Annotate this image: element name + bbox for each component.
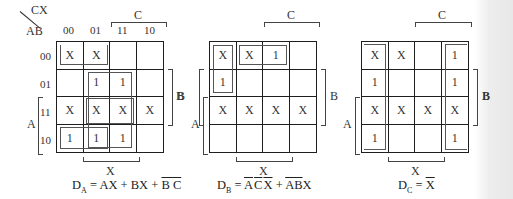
col-var-label: CX	[31, 3, 48, 18]
cell: 1	[362, 70, 389, 98]
cell	[415, 42, 442, 70]
cell	[210, 125, 237, 153]
cell	[137, 42, 164, 70]
c-label: C	[287, 8, 295, 23]
cell	[237, 70, 264, 98]
cell	[237, 125, 264, 153]
cell: X	[84, 42, 111, 70]
cell	[263, 70, 290, 98]
x-bracket	[388, 157, 445, 162]
row-header: 01	[40, 78, 51, 90]
c-label: C	[438, 8, 446, 23]
cell	[263, 125, 290, 153]
cell: 1	[84, 70, 111, 98]
b-bracket	[473, 69, 478, 126]
cell: 1	[442, 125, 469, 153]
cell	[110, 42, 137, 70]
cell: 1	[442, 42, 469, 70]
cell: X	[389, 97, 416, 125]
cell: X	[290, 97, 317, 125]
cell: 1	[210, 70, 237, 98]
cell	[389, 125, 416, 153]
cell	[137, 70, 164, 98]
cell: X	[362, 42, 389, 70]
x-label: X	[411, 164, 420, 179]
cell: X	[137, 97, 164, 125]
equation-da: DA = AX + BX + B C	[72, 178, 181, 195]
b-label: B	[482, 89, 490, 104]
cell: X	[263, 97, 290, 125]
cell: X	[237, 42, 264, 70]
cell	[290, 70, 317, 98]
cell	[415, 125, 442, 153]
cell	[290, 42, 317, 70]
cell	[290, 125, 317, 153]
cell: X	[442, 97, 469, 125]
x-label: X	[259, 164, 268, 179]
cell: X	[84, 97, 111, 125]
cell: 1	[110, 125, 137, 153]
cell: X	[57, 42, 84, 70]
b-label-left: B	[176, 89, 184, 104]
a-bracket	[355, 97, 360, 155]
cell: 1	[57, 125, 84, 153]
b-label: B	[330, 89, 338, 104]
c-label: C	[134, 8, 142, 23]
row-var-label: AB	[26, 24, 43, 39]
cell	[57, 70, 84, 98]
a-label: A	[343, 117, 352, 132]
kmap-grid: X X 1 1 X X X X	[209, 41, 317, 153]
cell: X	[362, 97, 389, 125]
equation-dc: DC = X	[398, 178, 435, 195]
cell	[415, 70, 442, 98]
cell: 1	[442, 70, 469, 98]
cell: 1	[84, 125, 111, 153]
cell: X	[389, 42, 416, 70]
cell: X	[415, 97, 442, 125]
cell	[389, 70, 416, 98]
b-bracket	[168, 69, 173, 126]
cell: 1	[110, 70, 137, 98]
page-shadow	[474, 0, 513, 199]
col-header: 01	[90, 24, 101, 36]
cell: 1	[362, 125, 389, 153]
a-label: A	[191, 117, 200, 132]
cell: X	[210, 42, 237, 70]
x-label: X	[106, 164, 115, 179]
cell: X	[110, 97, 137, 125]
kmap-grid: X X 1 1 1 X X X X 1 1	[361, 41, 469, 153]
col-header: 00	[63, 24, 74, 36]
b-bracket	[321, 69, 326, 126]
x-bracket	[236, 157, 293, 162]
cell: X	[57, 97, 84, 125]
a-label: A	[27, 117, 36, 132]
a-bracket	[38, 97, 43, 155]
cell	[137, 125, 164, 153]
cell: X	[237, 97, 264, 125]
a-bracket	[203, 97, 208, 155]
cell: X	[210, 97, 237, 125]
cell: 1	[263, 42, 290, 70]
row-header: 00	[40, 50, 51, 62]
kmap-grid: X X 1 1 X X X X 1 1 1	[56, 41, 164, 153]
x-bracket	[83, 157, 140, 162]
equation-db: DB = A C X + ABX	[217, 178, 312, 195]
